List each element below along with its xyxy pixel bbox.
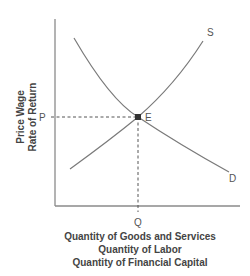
equilibrium-label: E bbox=[145, 112, 152, 123]
y-axis-title-line2: Rate of Return bbox=[27, 83, 38, 152]
supply-demand-chart: E S D P Q Price Wage Rate of Return Quan… bbox=[0, 0, 250, 276]
equilibrium-point bbox=[135, 114, 141, 120]
supply-label: S bbox=[207, 27, 214, 38]
supply-curve bbox=[70, 41, 203, 169]
x-axis-title-line2: Quantity of Labor bbox=[98, 244, 181, 255]
x-axis-title-line3: Quantity of Financial Capital bbox=[72, 257, 207, 268]
x-axis-title-line1: Quantity of Goods and Services bbox=[64, 231, 216, 242]
demand-label: D bbox=[229, 173, 236, 184]
p-tick-label: P bbox=[39, 112, 46, 123]
y-axis-title-line1: Price Wage bbox=[15, 90, 26, 144]
q-tick-label: Q bbox=[134, 217, 142, 228]
